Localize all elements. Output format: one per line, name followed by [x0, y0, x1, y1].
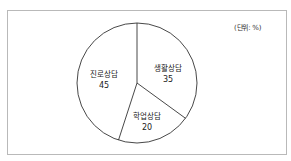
slice-name: 생활상담 — [148, 63, 188, 74]
slice-label-career: 진로상담 45 — [84, 69, 124, 91]
slice-value: 20 — [127, 122, 167, 133]
slice-name: 진로상담 — [84, 69, 124, 80]
slice-name: 학업상담 — [127, 111, 167, 122]
pie-chart — [0, 0, 291, 161]
slice-value: 35 — [148, 74, 188, 85]
slice-label-living: 생활상담 35 — [148, 63, 188, 85]
slice-value: 45 — [84, 80, 124, 91]
slice-label-academic: 학업상담 20 — [127, 111, 167, 133]
